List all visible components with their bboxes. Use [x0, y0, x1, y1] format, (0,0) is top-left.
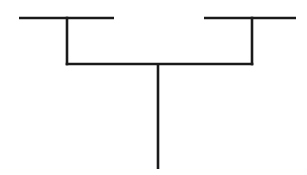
cladogram-canvas: [0, 0, 307, 175]
cladogram-svg: [0, 0, 307, 175]
